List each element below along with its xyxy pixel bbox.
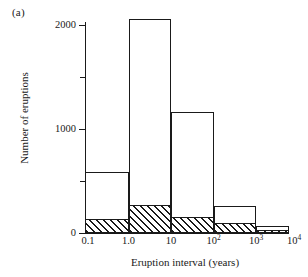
x-tick-label-0-text: 0.1 (81, 235, 94, 246)
y-tick-1000 (79, 129, 85, 130)
x-tick-label-4-exp: 3 (259, 233, 263, 242)
y-axis-tick-labels: 2000 1000 0 (0, 0, 76, 277)
bar-hatched-bin-3 (171, 217, 214, 233)
y-tick-0 (79, 233, 85, 234)
x-axis-title: Eruption interval (years) (60, 256, 308, 268)
x-tick-label-5-text: 10 (287, 235, 298, 246)
x-tick-label-5-exp: 4 (297, 233, 301, 242)
bar-hatched-bin-4 (214, 223, 257, 232)
y-tick-label-1000: 1000 (55, 124, 76, 135)
x-tick-label-2: 10 (166, 236, 177, 247)
y-tick-label-0: 0 (71, 228, 76, 239)
bar-hatched-bin-2 (129, 205, 172, 233)
bar-total-bin-2 (129, 19, 172, 232)
x-tick-label-4-text: 10 (249, 235, 260, 246)
x-tick-label-3-text: 10 (206, 235, 217, 246)
x-tick-label-2-text: 10 (166, 235, 177, 246)
bar-total-bin-3 (171, 112, 214, 233)
x-tick-label-4: 103 (249, 236, 263, 247)
eruption-interval-histogram: (a) 2000 1000 0 Number of eruptions 0.1 … (0, 0, 308, 277)
y-tick-label-2000: 2000 (55, 20, 76, 31)
x-tick-label-0: 0.1 (81, 236, 94, 247)
x-tick-label-1-text: 1.0 (122, 235, 135, 246)
y-tick-2000 (79, 25, 85, 26)
bar-hatched-bin-1 (85, 219, 129, 233)
x-tick-label-3-exp: 2 (217, 233, 221, 242)
y-axis-title: Number of eruptions (18, 38, 30, 198)
x-tick-label-1: 1.0 (122, 236, 135, 247)
x-tick-label-5: 104 (287, 236, 301, 247)
x-tick-label-3: 102 (206, 236, 220, 247)
y-tick-1500 (80, 77, 85, 78)
